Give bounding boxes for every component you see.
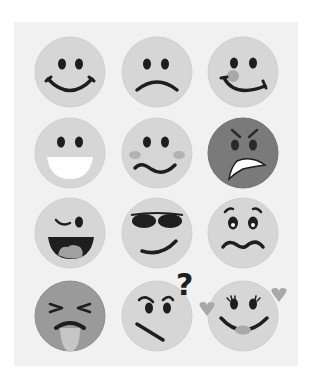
smiling-face-icon [34,36,106,108]
wavy-mouth-face-icon [121,117,193,189]
worried-face-icon [207,197,279,269]
grinning-face-icon [34,117,106,189]
angry-face-icon [207,117,279,189]
question-mark-icon: ? [176,270,193,300]
sad-face-icon [121,36,193,108]
blushing-smile-face-icon [207,36,279,108]
winking-face-icon [34,197,106,269]
vomiting-face-icon [34,280,106,352]
sunglasses-face-icon [121,197,193,269]
hearts-face-icon [207,280,279,352]
